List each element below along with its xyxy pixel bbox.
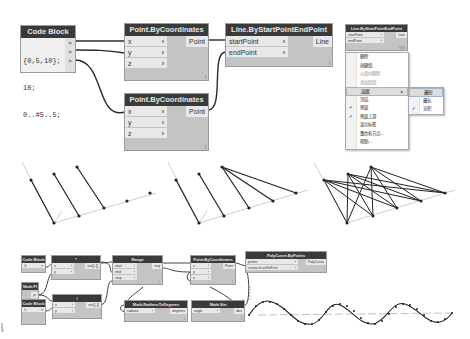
node-title: Point.ByCoordinates: [191, 256, 235, 263]
node-title: Math.PI: [22, 283, 38, 290]
output-port[interactable]: var[]..[]: [86, 302, 101, 308]
range-node[interactable]: Range start› end› step› seq l: [112, 255, 163, 285]
polycurve-by-points-node[interactable]: PolyCurve.ByPoints points› connectLastTo…: [245, 251, 327, 273]
input-port-angle[interactable]: angle›: [192, 308, 220, 314]
output-port-pi[interactable]: pi: [31, 292, 38, 298]
divide-node[interactable]: / x› y› var[]..[]: [52, 294, 102, 319]
output-port-point[interactable]: Point: [223, 263, 235, 269]
code-value[interactable]: 4;>: [22, 263, 45, 269]
output-port[interactable]: >: [41, 308, 43, 312]
node-title: Math.Sin: [192, 301, 244, 308]
multiply-node[interactable]: * x› y› var[]..[]: [51, 255, 101, 280]
preview-cross-product-lacing: [314, 163, 455, 225]
input-port-z[interactable]: z›: [191, 275, 211, 281]
node-title: Range: [113, 256, 162, 263]
node-title: PolyCurve.ByPoints: [246, 252, 326, 259]
input-port-connect-last-to-first[interactable]: connectLastToFirst›: [246, 265, 298, 271]
output-port[interactable]: var[]..[]: [85, 263, 100, 269]
preview-shortest-lacing: [22, 162, 156, 225]
code-value[interactable]: 1;>: [22, 307, 45, 313]
output-port-degrees[interactable]: degrees: [170, 308, 187, 314]
input-port-y[interactable]: y›: [53, 308, 75, 314]
input-port-radians[interactable]: radians›: [125, 308, 155, 314]
output-port[interactable]: >: [41, 264, 43, 268]
math-sin-node[interactable]: Math.Sin angle› dou l: [191, 300, 245, 322]
point-by-coordinates-node[interactable]: Point.ByCoordinates x› y› z› Point l: [190, 255, 236, 285]
node-title: Code Block: [22, 300, 45, 307]
node-title: Code Block: [22, 256, 45, 263]
radians-to-degrees-node[interactable]: Math.RadiansToDegrees radians› degrees l: [124, 300, 188, 322]
preview-longest-lacing: [168, 162, 308, 225]
node-title: /: [53, 295, 101, 302]
preview-sine-polycurve: [248, 285, 455, 325]
code-block-node-1[interactable]: Code Block 1;>: [21, 299, 46, 325]
output-port-seq[interactable]: seq: [152, 263, 162, 269]
input-port-y[interactable]: y›: [52, 269, 74, 275]
node-title: Math.RadiansToDegrees: [125, 301, 187, 308]
output-port-double[interactable]: dou: [234, 308, 244, 314]
output-port-polycurve[interactable]: PolyCurve: [306, 259, 326, 265]
code-block-node-4[interactable]: Code Block 4;>: [21, 255, 46, 273]
node-title: *: [52, 256, 100, 263]
canvas-edge-mark: [2, 323, 4, 331]
geometry-previews: [0, 0, 470, 339]
input-port-step[interactable]: step›: [113, 275, 137, 281]
